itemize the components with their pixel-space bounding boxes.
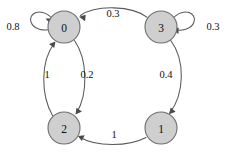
edge-0-to-0: 0.8 <box>6 12 52 31</box>
edge-3-to-1: 0.4 <box>159 40 181 114</box>
node-1-label: 1 <box>158 123 164 135</box>
node-3[interactable]: 3 <box>145 11 177 43</box>
node-1[interactable]: 1 <box>145 112 177 144</box>
node-2-label: 2 <box>61 123 67 135</box>
edge-label-0-to-2: 0.2 <box>80 69 93 80</box>
edge-1-to-2: 1 <box>78 129 146 145</box>
edge-label-1-to-2: 1 <box>111 129 116 140</box>
node-0[interactable]: 0 <box>48 11 80 43</box>
edge-label-0-to-0: 0.8 <box>6 21 19 32</box>
edge-label-2-to-0: 1 <box>44 69 49 80</box>
edge-0-to-2: 0.2 <box>75 41 94 115</box>
edge-3-to-0: 0.3 <box>79 8 147 22</box>
edge-label-3-to-3: 0.3 <box>206 21 219 32</box>
graph-canvas: 0.8 0.3 0.3 1 0.2 0. <box>0 0 231 155</box>
edge-label-3-to-0: 0.3 <box>106 8 119 19</box>
node-2[interactable]: 2 <box>48 112 80 144</box>
edge-label-3-to-1: 0.4 <box>159 69 173 80</box>
state-transition-diagram: 0.8 0.3 0.3 1 0.2 0. <box>0 0 231 155</box>
edge-3-to-3: 0.3 <box>172 12 220 34</box>
arrowhead-3-to-0 <box>79 15 86 21</box>
node-0-label: 0 <box>61 22 67 34</box>
arrowhead-1-to-2 <box>78 135 85 141</box>
edge-2-to-0: 1 <box>44 42 56 116</box>
node-3-label: 3 <box>158 22 164 34</box>
arrowhead-3-to-1 <box>169 107 176 114</box>
